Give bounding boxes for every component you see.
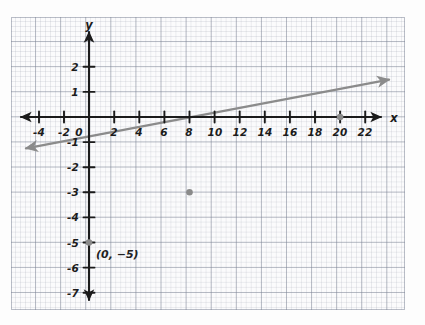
x-axis (21, 112, 381, 123)
point-marker (337, 114, 344, 121)
graph-screenshot: -4 -2 0 2 4 6 8 10 12 14 16 18 20 22 2 1… (0, 0, 425, 325)
y-tick-label: -4 (67, 211, 79, 223)
y-tick-label: -7 (67, 287, 79, 299)
graph-plot-area: -4 -2 0 2 4 6 8 10 12 14 16 18 20 22 2 1… (11, 17, 405, 310)
y-tick-label: 2 (71, 61, 79, 73)
y-tick-label: -2 (67, 161, 79, 173)
y-tick-label: 1 (71, 86, 79, 98)
point-annotation: (0, −5) (96, 248, 139, 261)
x-tick-label: 6 (160, 126, 168, 138)
y-axis (84, 32, 95, 300)
x-tick-label: 20 (332, 126, 347, 138)
y-tick-label: -5 (67, 237, 79, 249)
x-tick-label: 22 (357, 126, 372, 138)
y-tick-label: -3 (67, 186, 79, 198)
x-tick-label: 18 (307, 126, 322, 138)
x-tick-label: 16 (282, 126, 297, 138)
point-marker (186, 189, 193, 196)
x-tick-label: 8 (185, 126, 193, 138)
x-tick-label: -4 (33, 126, 45, 138)
x-tick-label: 12 (232, 126, 247, 138)
x-tick-label: 2 (110, 126, 118, 138)
x-tick-label: 10 (207, 126, 222, 138)
y-axis-label: y (85, 18, 93, 32)
x-tick-label: 4 (135, 126, 143, 138)
x-axis-label: x (390, 111, 397, 125)
y-tick-label: -6 (67, 262, 79, 274)
point-marker (86, 239, 93, 246)
x-tick-label: 14 (257, 126, 272, 138)
y-tick-label: -1 (67, 136, 79, 148)
